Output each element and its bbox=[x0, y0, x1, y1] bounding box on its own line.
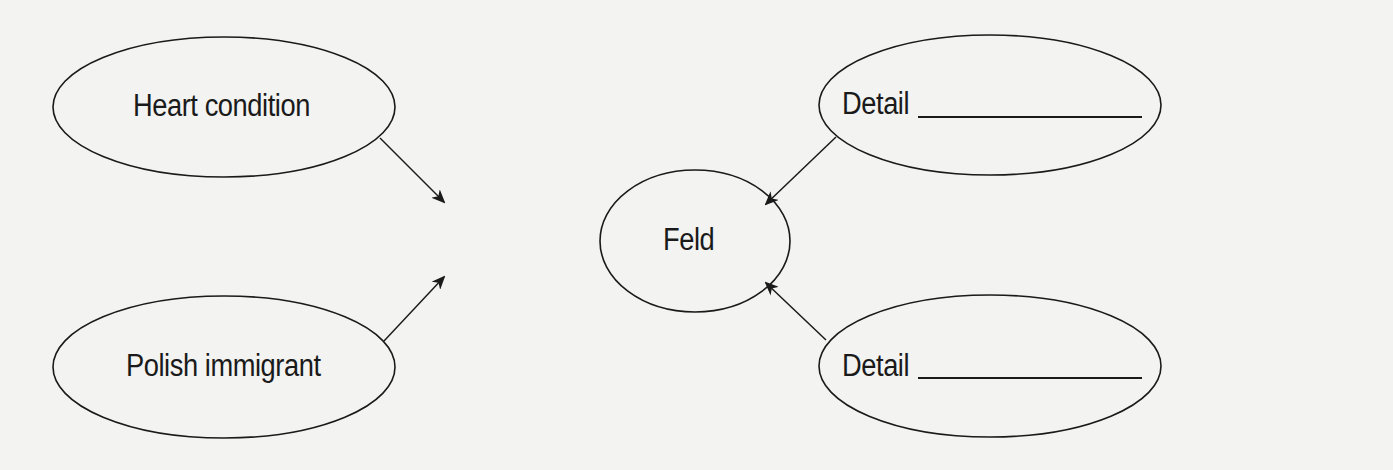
detail-top-blank-line bbox=[918, 116, 1142, 118]
node-label-detail-top: Detail bbox=[842, 88, 909, 119]
node-label-polish-immigrant: Polish immigrant bbox=[126, 350, 321, 381]
node-label-heart-condition: Heart condition bbox=[133, 90, 310, 121]
arrow-bottom-left-to-center bbox=[384, 277, 444, 341]
arrow-top-left-to-center bbox=[380, 138, 444, 202]
detail-bottom-blank-line bbox=[918, 377, 1142, 379]
node-label-detail-bottom: Detail bbox=[842, 350, 909, 381]
center-label-feld: Feld bbox=[663, 224, 714, 255]
arrow-top-right-to-center bbox=[766, 137, 836, 204]
concept-web-diagram: Heart condition Polish immigrant Feld De… bbox=[0, 0, 1393, 470]
arrow-bottom-right-to-center bbox=[766, 283, 826, 340]
